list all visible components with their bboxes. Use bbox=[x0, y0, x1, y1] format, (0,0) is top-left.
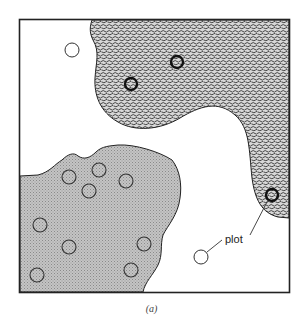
leader-line-to-ring bbox=[250, 200, 268, 235]
plot-label: plot bbox=[225, 233, 243, 245]
grey-region bbox=[20, 145, 181, 292]
open-plot-circle bbox=[194, 250, 208, 264]
plot-diagram: plot bbox=[0, 0, 303, 332]
leader-line-to-open-circle bbox=[207, 240, 222, 252]
open-plot-circle bbox=[65, 43, 79, 57]
figure-caption: (a) bbox=[0, 303, 303, 314]
